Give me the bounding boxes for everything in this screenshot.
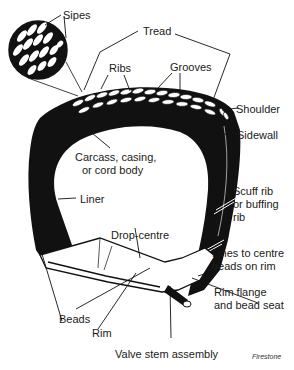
label-lines-line1: Lines to centre (212, 247, 284, 259)
label-valve-stem: Valve stem assembly (115, 348, 218, 360)
label-sipes: Sipes (63, 9, 91, 21)
label-sidewall: Sidewall (237, 129, 278, 141)
label-grooves: Grooves (170, 61, 212, 73)
label-liner: Liner (80, 193, 104, 205)
label-carcass-line2: or cord body (82, 164, 143, 176)
label-scuff-line1: Scuff rib (233, 185, 273, 197)
label-drop-centre: Drop-centre (111, 229, 169, 241)
credit-firestone: Firestone (252, 353, 281, 360)
label-shoulder: Shoulder (236, 103, 280, 115)
label-scuff-line2: or buffing (233, 198, 279, 210)
label-rim-flange-line1: Rim flange (214, 286, 267, 298)
label-rim: Rim (92, 327, 112, 339)
label-rim-flange-line2: and bead seat (214, 299, 284, 311)
label-tread: Tread (143, 25, 171, 37)
label-ribs: Ribs (109, 62, 131, 74)
label-lines-line2: beads on rim (212, 260, 276, 272)
label-scuff-line3: rib (233, 211, 245, 223)
label-beads: Beads (59, 313, 90, 325)
sipes-magnifier (9, 21, 82, 96)
label-carcass-line1: Carcass, casing, (75, 151, 156, 163)
